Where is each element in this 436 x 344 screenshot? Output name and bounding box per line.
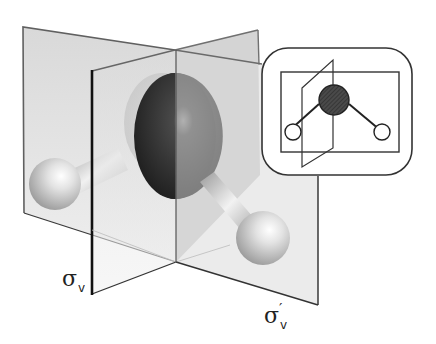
symmetry-diagram <box>0 0 436 344</box>
sigma-symbol: σ <box>264 303 279 328</box>
prime-mark: ′ <box>279 300 282 318</box>
inset-schematic <box>262 48 412 175</box>
inset-oxygen <box>319 85 349 115</box>
inset-hydrogen-right <box>374 124 390 140</box>
label-sigma-v: σv <box>62 268 84 290</box>
inset-hydrogen-left <box>285 124 301 140</box>
subscript: v <box>280 318 287 332</box>
subscript: v <box>78 281 85 295</box>
label-sigma-v-prime: σ′v <box>264 305 286 327</box>
sigma-symbol: σ <box>62 266 77 291</box>
